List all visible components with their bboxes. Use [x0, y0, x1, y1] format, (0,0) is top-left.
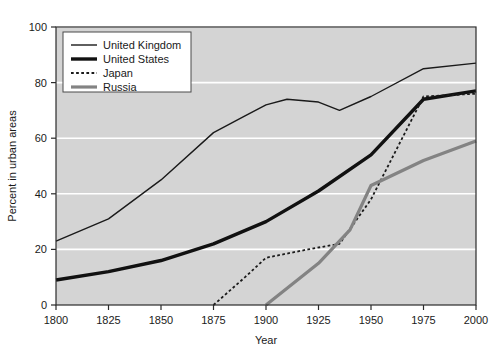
x-tick-label: 1850 — [149, 314, 173, 326]
x-tick-label: 1900 — [254, 314, 278, 326]
x-tick-label: 1875 — [201, 314, 225, 326]
x-tick-label: 1925 — [306, 314, 330, 326]
legend-label: Russia — [103, 81, 138, 93]
x-axis-title: Year — [255, 334, 278, 346]
x-tick-label: 1950 — [359, 314, 383, 326]
chart-legend: United KingdomUnited StatesJapanRussia — [63, 32, 191, 93]
x-tick-label: 1975 — [411, 314, 435, 326]
y-tick-label: 20 — [35, 243, 47, 255]
legend-label: Japan — [103, 67, 133, 79]
x-tick-label: 1825 — [96, 314, 120, 326]
x-tick-label: 1800 — [44, 314, 68, 326]
legend-label: United Kingdom — [103, 39, 181, 51]
legend-label: United States — [103, 53, 170, 65]
line-chart: 020406080100 180018251850187519001925195… — [0, 0, 493, 350]
x-tick-label: 2000 — [464, 314, 488, 326]
y-tick-label: 40 — [35, 188, 47, 200]
y-tick-label: 100 — [29, 21, 47, 33]
chart-container: 020406080100 180018251850187519001925195… — [0, 0, 493, 350]
y-axis-title: Percent in urban areas — [6, 110, 18, 222]
y-tick-label: 60 — [35, 132, 47, 144]
y-tick-label: 0 — [41, 299, 47, 311]
y-tick-label: 80 — [35, 77, 47, 89]
